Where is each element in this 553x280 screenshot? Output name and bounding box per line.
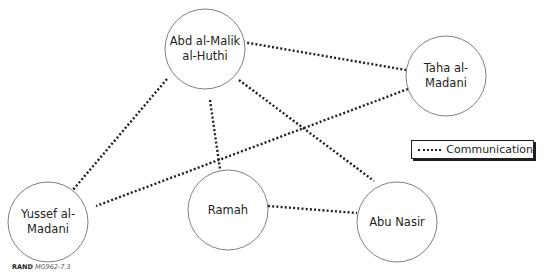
edge-ramah-abunasir — [268, 206, 357, 213]
dotted-line-swatch-icon — [418, 149, 441, 151]
node-label-yussef: Yussef al- Madani — [21, 207, 75, 237]
node-label-taha: Taha al- Madani — [424, 61, 469, 91]
legend: Communication — [411, 140, 534, 159]
credit-org: RAND — [12, 263, 33, 271]
credit-ref: MG962-7.3 — [35, 263, 71, 271]
figure-credit: RAND MG962-7.3 — [12, 263, 71, 271]
edge-abd-abunasir — [239, 80, 374, 181]
legend-label: Communication — [446, 143, 533, 156]
edge-abd-taha — [243, 42, 406, 70]
edge-abd-ramah — [210, 100, 220, 169]
edge-abd-yussef — [72, 79, 167, 191]
node-label-abunasir: Abu Nasir — [369, 215, 425, 230]
node-label-ramah: Ramah — [208, 203, 248, 218]
node-label-abd: Abd al-Malik al-Huthi — [170, 34, 241, 64]
